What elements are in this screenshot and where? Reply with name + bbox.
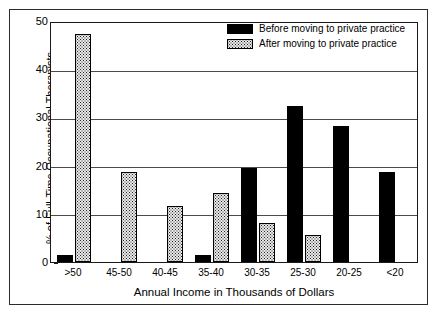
x-tick-label: 45-50 [96,267,142,279]
gridline [51,167,417,168]
y-tick-label: 30 [14,112,48,123]
bar-before-50 [57,255,73,262]
y-axis: 01020304050 [8,0,48,322]
chart-legend: Before moving to private practiceAfter m… [227,24,412,52]
x-tick-label: 40-45 [142,267,188,279]
legend-entry: Before moving to private practice [227,24,412,35]
bar-after-45-50 [121,172,137,262]
bar-after-25-30 [305,235,321,262]
x-tick-label: 25-30 [280,267,326,279]
legend-entry: After moving to private practice [227,39,412,50]
gridline [51,215,417,216]
bar-chart: 01020304050 % of Full-Time Occupational … [0,0,439,322]
x-axis: >5045-5040-4535-4030-3525-3020-25<20 [50,267,418,281]
y-axis-title-wrap: % of Full-Time Occupational Therapists [22,22,23,263]
y-tick-label: 0 [14,257,48,268]
y-tick-label: 20 [14,161,48,172]
x-tick-label: >50 [50,267,96,279]
bar-after-30-35 [259,223,275,262]
x-axis-title: Annual Income in Thousands of Dollars [50,286,418,298]
legend-label: After moving to private practice [259,38,397,50]
bar-before-25-30 [287,106,303,262]
bar-after-40-45 [167,206,183,262]
y-tick-label: 50 [14,16,48,27]
bar-before-35-40 [195,255,211,262]
gridline [51,119,417,120]
y-tick-label: 40 [14,64,48,75]
solid-black-swatch [227,24,253,34]
plot-area [50,22,418,263]
x-tick-label: 35-40 [188,267,234,279]
legend-label: Before moving to private practice [259,23,405,35]
x-tick-label: 30-35 [234,267,280,279]
bar-after-50 [75,34,91,262]
x-tick-label: <20 [372,267,418,279]
y-tick-label: 10 [14,209,48,220]
bar-before-20 [379,172,395,262]
dotted-gray-swatch [227,39,253,49]
x-tick-label: 20-25 [326,267,372,279]
bar-before-30-35 [241,168,257,262]
bar-before-20-25 [333,126,349,262]
gridline [51,71,417,72]
bar-after-35-40 [213,193,229,262]
